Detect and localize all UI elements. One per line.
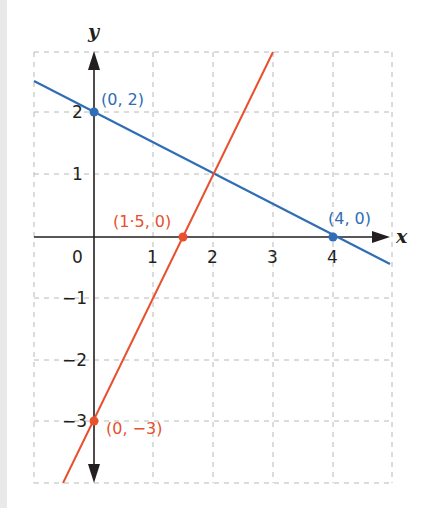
x-tick-labels: 0 1 2 3 4 — [72, 247, 338, 267]
point-red-1-5-0 — [179, 233, 188, 242]
label-red-0-neg3: (0, −3) — [106, 419, 162, 438]
y-axis-arrow-down-icon — [88, 464, 100, 483]
axes — [34, 51, 390, 483]
point-red-0-neg3 — [90, 417, 99, 426]
x-tick-0: 0 — [72, 247, 83, 267]
x-axis-arrow-icon — [372, 231, 390, 243]
y-tick-neg3: −3 — [62, 411, 87, 431]
y-axis-arrow-up-icon — [88, 51, 100, 70]
x-tick-1: 1 — [147, 247, 158, 267]
label-blue-0-2: (0, 2) — [101, 90, 144, 109]
y-tick-neg1: −1 — [62, 288, 87, 308]
x-tick-3: 3 — [267, 247, 278, 267]
x-tick-4: 4 — [327, 247, 338, 267]
coordinate-graph: x y 0 1 2 3 4 2 1 −1 −2 −3 (0, 2) (4, 0)… — [0, 0, 427, 508]
y-tick-neg2: −2 — [62, 350, 87, 370]
y-axis-label: y — [87, 20, 101, 42]
point-blue-0-2 — [90, 108, 99, 117]
y-tick-1: 1 — [72, 164, 83, 184]
point-blue-4-0 — [329, 233, 338, 242]
grid — [34, 52, 392, 483]
label-red-1-5-0: (1·5, 0) — [113, 212, 171, 231]
x-tick-2: 2 — [207, 247, 218, 267]
label-blue-4-0: (4, 0) — [328, 209, 371, 228]
x-axis-label: x — [395, 225, 408, 247]
